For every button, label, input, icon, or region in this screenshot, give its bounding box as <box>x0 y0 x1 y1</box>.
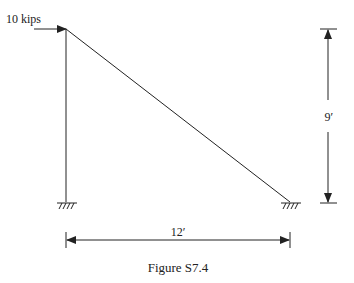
width-label: 12′ <box>171 225 186 239</box>
figure-caption: Figure S7.4 <box>148 260 209 275</box>
height-label: 9′ <box>324 110 333 124</box>
right-fixed-support-icon <box>281 203 301 209</box>
frame-diagram: 10 kips 9′ 12′ Figure S7.4 <box>0 0 354 283</box>
inclined-member <box>66 29 290 202</box>
left-fixed-support-icon <box>57 203 77 209</box>
load-label: 10 kips <box>6 12 41 26</box>
